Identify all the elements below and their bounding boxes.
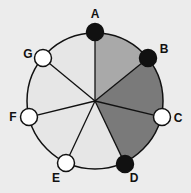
node-label-f: F: [9, 110, 16, 124]
node-b: [140, 50, 157, 67]
node-f: [21, 109, 38, 126]
diagram-canvas: ABCDEFG: [0, 0, 191, 193]
ring-diagram: ABCDEFG: [0, 0, 191, 193]
node-g: [35, 50, 52, 67]
node-label-d: D: [130, 171, 139, 185]
node-label-g: G: [23, 47, 32, 61]
node-label-b: B: [160, 42, 169, 56]
node-label-e: E: [52, 171, 60, 185]
node-e: [58, 155, 75, 172]
node-label-c: C: [174, 111, 183, 125]
node-a: [87, 24, 104, 41]
node-d: [117, 156, 134, 173]
node-label-a: A: [91, 7, 100, 21]
node-c: [154, 109, 171, 126]
